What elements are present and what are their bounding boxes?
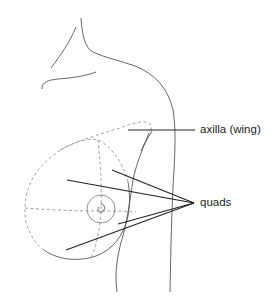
areola bbox=[87, 195, 115, 223]
axilla-label: axilla (wing) bbox=[200, 124, 261, 136]
neck-left-outline bbox=[51, 27, 76, 68]
torso-stipple bbox=[90, 52, 175, 292]
breast-lower-outline bbox=[44, 182, 130, 259]
quadrant-divider-horizontal bbox=[25, 208, 136, 212]
clavicle-outline bbox=[42, 72, 96, 89]
anatomy-drawing bbox=[0, 0, 274, 304]
quads-label: quads bbox=[200, 197, 231, 209]
breast-anatomy-diagram: axilla (wing) quads bbox=[0, 0, 274, 304]
